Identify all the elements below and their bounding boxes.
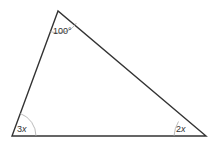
angle-label-bottom-right-var: x <box>180 124 186 134</box>
angle-label-bottom-left-var: x <box>21 124 27 134</box>
triangle-shape <box>12 11 206 136</box>
angle-label-bottom-right: 2x <box>176 124 186 134</box>
triangle-diagram: 100° 3x 2x <box>0 0 216 143</box>
angle-label-bottom-left: 3x <box>17 124 27 134</box>
angle-label-top: 100° <box>53 26 72 36</box>
